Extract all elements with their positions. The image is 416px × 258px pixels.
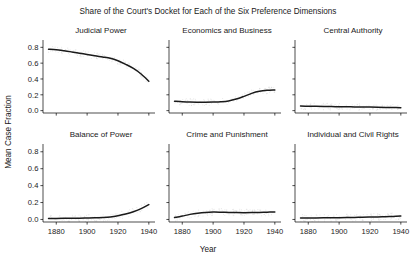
- scatter-point: [182, 99, 183, 100]
- y-tick-label-0.6: 0.6: [28, 59, 39, 68]
- scatter-point: [269, 88, 270, 89]
- scatter-point: [79, 220, 80, 221]
- scatter-point: [81, 56, 82, 57]
- scatter-point: [233, 209, 234, 210]
- scatter-point: [189, 105, 190, 106]
- scatter-point: [100, 219, 101, 220]
- scatter-point: [226, 211, 227, 212]
- y-tick-label-0.6: 0.6: [28, 164, 39, 173]
- scatter-point: [103, 214, 104, 215]
- scatter-point: [327, 216, 328, 217]
- scatter-point: [392, 212, 393, 213]
- scatter-point: [303, 220, 304, 221]
- scatter-point: [380, 109, 381, 110]
- panel-title-balance-of-power: Balance of Power: [70, 130, 133, 139]
- scatter-point: [266, 93, 267, 94]
- scatter-point: [83, 50, 84, 51]
- scatter-point: [191, 105, 192, 106]
- x-axis-label: Year: [200, 245, 217, 254]
- scatter-point: [259, 209, 260, 210]
- scatter-point: [178, 214, 179, 215]
- scatter-point: [88, 51, 89, 52]
- scatter-point: [226, 209, 227, 210]
- scatter-point: [68, 220, 69, 221]
- scatter-point: [132, 209, 133, 210]
- scatter-point: [306, 215, 307, 216]
- scatter-point: [185, 213, 186, 214]
- scatter-point: [379, 214, 380, 215]
- scatter-point: [351, 219, 352, 220]
- scatter-point: [318, 108, 319, 109]
- scatter-point: [247, 214, 248, 215]
- scatter-point: [324, 220, 325, 221]
- scatter-point: [194, 216, 195, 217]
- scatter-point: [102, 55, 103, 56]
- scatter-point: [374, 105, 375, 106]
- scatter-point: [146, 202, 147, 203]
- scatter-point: [386, 109, 387, 110]
- scatter-point: [356, 214, 357, 215]
- y-axis-label: Mean Case Fraction: [4, 95, 13, 169]
- scatter-point: [102, 54, 103, 55]
- scatter-point: [242, 94, 243, 95]
- scatter-point: [244, 211, 245, 212]
- scatter-point: [61, 52, 62, 53]
- scatter-point: [203, 99, 204, 100]
- scatter-point: [104, 219, 105, 220]
- scatter-point: [72, 215, 73, 216]
- scatter-point: [128, 211, 129, 212]
- scatter-point: [335, 104, 336, 105]
- x-tick-label-1940: 1940: [140, 227, 157, 236]
- scatter-point: [352, 104, 353, 105]
- scatter-point: [198, 103, 199, 104]
- scatter-point: [187, 217, 188, 218]
- scatter-point: [265, 88, 266, 89]
- scatter-point: [302, 214, 303, 215]
- scatter-point: [50, 215, 51, 216]
- scatter-point: [304, 108, 305, 109]
- scatter-point: [369, 109, 370, 110]
- scatter-point: [202, 104, 203, 105]
- scatter-point: [241, 214, 242, 215]
- scatter-point: [212, 210, 213, 211]
- scatter-point: [371, 220, 372, 221]
- scatter-point: [314, 103, 315, 104]
- scatter-point: [195, 211, 196, 212]
- scatter-point: [265, 210, 266, 211]
- y-tick-label-0.0: 0.0: [28, 215, 39, 224]
- scatter-point: [52, 50, 53, 51]
- scatter-point: [222, 210, 223, 211]
- scatter-point: [129, 209, 130, 210]
- scatter-point: [217, 103, 218, 104]
- scatter-point: [181, 103, 182, 104]
- scatter-point: [388, 214, 389, 215]
- scatter-point: [141, 77, 142, 78]
- scatter-point: [398, 219, 399, 220]
- scatter-point: [112, 214, 113, 215]
- scatter-point: [270, 88, 271, 89]
- scatter-point: [232, 98, 233, 99]
- scatter-point: [306, 104, 307, 105]
- scatter-point: [352, 220, 353, 221]
- scatter-point: [254, 214, 255, 215]
- scatter-point: [135, 67, 136, 68]
- scatter-point: [68, 49, 69, 50]
- x-tick-label-1880: 1880: [300, 227, 317, 236]
- scatter-point: [244, 215, 245, 216]
- scatter-point: [371, 218, 372, 219]
- scatter-point: [269, 87, 270, 88]
- scatter-point: [336, 214, 337, 215]
- scatter-point: [235, 96, 236, 97]
- scatter-point: [107, 220, 108, 221]
- scatter-point: [128, 216, 129, 217]
- scatter-point: [336, 108, 337, 109]
- x-tick-label-1920: 1920: [110, 227, 127, 236]
- scatter-point: [392, 104, 393, 105]
- scatter-point: [380, 219, 381, 220]
- scatter-point: [85, 51, 86, 52]
- scatter-point: [371, 213, 372, 214]
- scatter-point: [319, 107, 320, 108]
- scatter-point: [175, 215, 176, 216]
- scatter-point: [350, 108, 351, 109]
- panel-title-judicial-power: Judicial Power: [75, 26, 127, 35]
